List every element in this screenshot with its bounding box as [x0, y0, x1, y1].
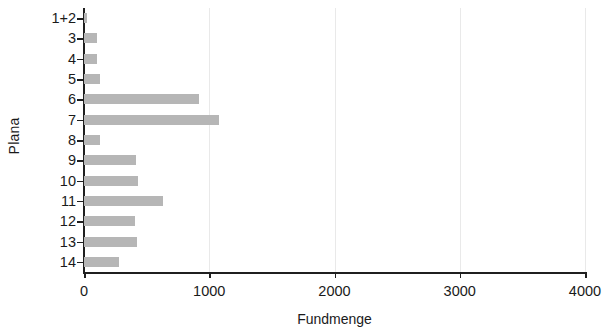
x-tick-label: 1000: [193, 283, 225, 299]
y-tick-label: 14: [28, 255, 76, 270]
y-tick-label: 8: [28, 133, 76, 148]
bar: [84, 33, 97, 43]
y-tick-label: 13: [28, 235, 76, 250]
y-tick-mark: [77, 160, 83, 162]
x-tick-mark: [335, 272, 337, 278]
bar: [84, 155, 136, 165]
y-tick-label: 12: [28, 214, 76, 229]
x-axis-title-label: Fundmenge: [233, 311, 372, 327]
gridline: [585, 8, 586, 272]
x-tick-label: 4000: [569, 283, 601, 299]
bar: [84, 257, 119, 267]
y-axis-title-label: Plana: [6, 118, 22, 155]
y-tick-mark: [77, 242, 83, 244]
y-tick-mark: [77, 120, 83, 122]
gridline: [335, 8, 336, 272]
y-tick-mark: [77, 18, 83, 20]
y-axis-title: Plana: [0, 0, 28, 272]
y-tick-mark: [77, 262, 83, 264]
y-tick-label: 1+2: [28, 11, 76, 26]
x-axis-title: Fundmenge: [0, 311, 605, 327]
gridline: [209, 8, 210, 272]
y-tick-mark: [77, 38, 83, 40]
y-tick-label: 6: [28, 92, 76, 107]
bar: [84, 176, 138, 186]
bar: [84, 135, 100, 145]
y-tick-label: 5: [28, 72, 76, 87]
x-tick-mark: [585, 272, 587, 278]
y-tick-mark: [77, 201, 83, 203]
gridline: [460, 8, 461, 272]
x-tick-mark: [460, 272, 462, 278]
x-tick-mark: [209, 272, 211, 278]
y-tick-label: 10: [28, 174, 76, 189]
bar: [84, 115, 219, 125]
y-tick-mark: [77, 59, 83, 61]
y-tick-label: 11: [28, 194, 76, 209]
bar-chart: Plana 1+234567891011121314 0100020003000…: [0, 0, 605, 336]
x-tick-label: 0: [80, 283, 88, 299]
y-tick-label: 4: [28, 52, 76, 67]
x-tick-mark: [84, 272, 86, 278]
bar: [84, 13, 87, 23]
bar: [84, 216, 135, 226]
y-tick-mark: [77, 79, 83, 81]
y-tick-mark: [77, 181, 83, 183]
plot-area: [84, 8, 585, 272]
y-tick-mark: [77, 221, 83, 223]
y-tick-mark: [77, 140, 83, 142]
bar: [84, 196, 163, 206]
y-tick-mark: [77, 99, 83, 101]
y-tick-label: 7: [28, 113, 76, 128]
bar: [84, 74, 100, 84]
x-tick-label: 3000: [444, 283, 476, 299]
x-tick-label: 2000: [318, 283, 350, 299]
y-tick-label: 9: [28, 153, 76, 168]
bar: [84, 237, 137, 247]
y-tick-label: 3: [28, 31, 76, 46]
bar: [84, 54, 97, 64]
bar: [84, 94, 199, 104]
